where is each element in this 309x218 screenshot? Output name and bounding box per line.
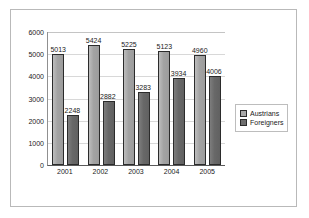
bar[interactable]: 5424 <box>88 45 100 165</box>
legend-item[interactable]: Austrians <box>240 110 283 117</box>
bar-value-label: 4960 <box>192 47 208 54</box>
chart-legend: AustriansForeigners <box>235 104 288 132</box>
bar[interactable]: 5225 <box>123 49 135 165</box>
legend-swatch-icon <box>240 119 247 126</box>
plot-area: 0100020003000400050006000 50132248542428… <box>47 32 225 166</box>
bar-value-label: 5225 <box>121 41 137 48</box>
chart-figure: 0100020003000400050006000 50132248542428… <box>10 9 297 207</box>
y-tick-label: 3000 <box>28 95 44 102</box>
bar[interactable]: 3934 <box>173 78 185 165</box>
x-axis-tick-labels: 20012002200320042005 <box>47 168 225 175</box>
bar[interactable]: 4006 <box>209 76 221 165</box>
bar-value-label: 5013 <box>50 46 66 53</box>
bar-value-label: 3934 <box>171 70 187 77</box>
y-tick-label: 6000 <box>28 29 44 36</box>
x-tick-label: 2003 <box>118 168 154 175</box>
bar-value-label: 2248 <box>65 107 81 114</box>
legend-label: Foreigners <box>250 119 283 126</box>
bar-value-label: 2882 <box>100 93 116 100</box>
bar[interactable]: 5013 <box>52 54 64 165</box>
legend-swatch-icon <box>240 110 247 117</box>
bar-value-label: 5123 <box>157 43 173 50</box>
bar[interactable]: 2882 <box>103 101 115 165</box>
bar[interactable]: 2248 <box>67 115 79 165</box>
bar-group: 50132248 <box>52 32 79 165</box>
bar-groups: 5013224854242882522532835123393449604006 <box>48 32 225 165</box>
bar-value-label: 4006 <box>206 68 222 75</box>
bar-group: 51233934 <box>158 32 185 165</box>
x-tick-label: 2001 <box>47 168 83 175</box>
bar-group: 52253283 <box>123 32 150 165</box>
bar-group: 54242882 <box>88 32 115 165</box>
y-tick-label: 2000 <box>28 117 44 124</box>
x-tick-label: 2004 <box>154 168 190 175</box>
bar-group: 49604006 <box>194 32 221 165</box>
y-tick-label: 4000 <box>28 73 44 80</box>
legend-item[interactable]: Foreigners <box>240 119 283 126</box>
y-tick-label: 0 <box>40 162 44 169</box>
bar[interactable]: 5123 <box>158 51 170 165</box>
y-tick-label: 1000 <box>28 139 44 146</box>
x-tick-label: 2005 <box>189 168 225 175</box>
bar[interactable]: 3283 <box>138 92 150 165</box>
bar-value-label: 5424 <box>86 37 102 44</box>
bar[interactable]: 4960 <box>194 55 206 165</box>
legend-label: Austrians <box>250 110 279 117</box>
y-tick-label: 5000 <box>28 51 44 58</box>
x-tick-label: 2002 <box>83 168 119 175</box>
bar-value-label: 3283 <box>135 84 151 91</box>
